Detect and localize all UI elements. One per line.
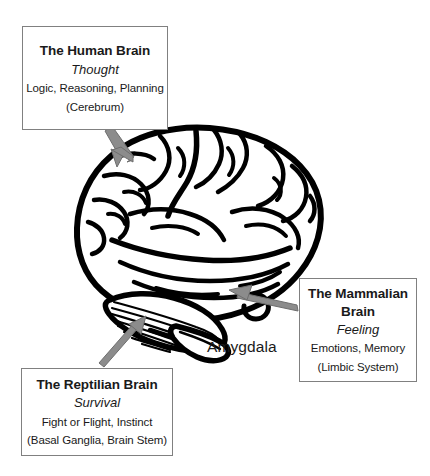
callout-mammalian-brain[interactable]: The Mammalian Brain Feeling Emotions, Me… <box>299 278 417 382</box>
callout-human-title: The Human Brain <box>40 42 150 59</box>
callout-reptilian-title: The Reptilian Brain <box>36 376 157 393</box>
callout-reptilian-region: (Basal Ganglia, Brain Stem) <box>27 431 167 450</box>
callout-reptilian-detail: Fight or Flight, Instinct <box>42 413 153 432</box>
diagram-canvas: The Human Brain Thought Logic, Reasoning… <box>0 0 430 476</box>
callout-human-brain[interactable]: The Human Brain Thought Logic, Reasoning… <box>22 26 168 130</box>
arrow-to-cerebrum <box>105 126 134 167</box>
arrow-to-cerebellum <box>99 323 139 367</box>
callout-mammalian-region: (Limbic System) <box>318 358 399 377</box>
callout-reptilian-brain[interactable]: The Reptilian Brain Survival Fight or Fl… <box>21 368 173 456</box>
callout-mammalian-subtitle: Feeling <box>337 320 380 340</box>
amygdala-label: Amygdala <box>207 338 277 356</box>
callout-mammalian-title: The Mammalian Brain <box>308 285 408 320</box>
callout-reptilian-subtitle: Survival <box>74 393 120 413</box>
callout-human-detail: Logic, Reasoning, Planning <box>26 79 163 98</box>
callout-human-subtitle: Thought <box>71 60 119 80</box>
callout-mammalian-detail: Emotions, Memory <box>311 339 405 358</box>
callout-human-region: (Cerebrum) <box>66 98 124 117</box>
